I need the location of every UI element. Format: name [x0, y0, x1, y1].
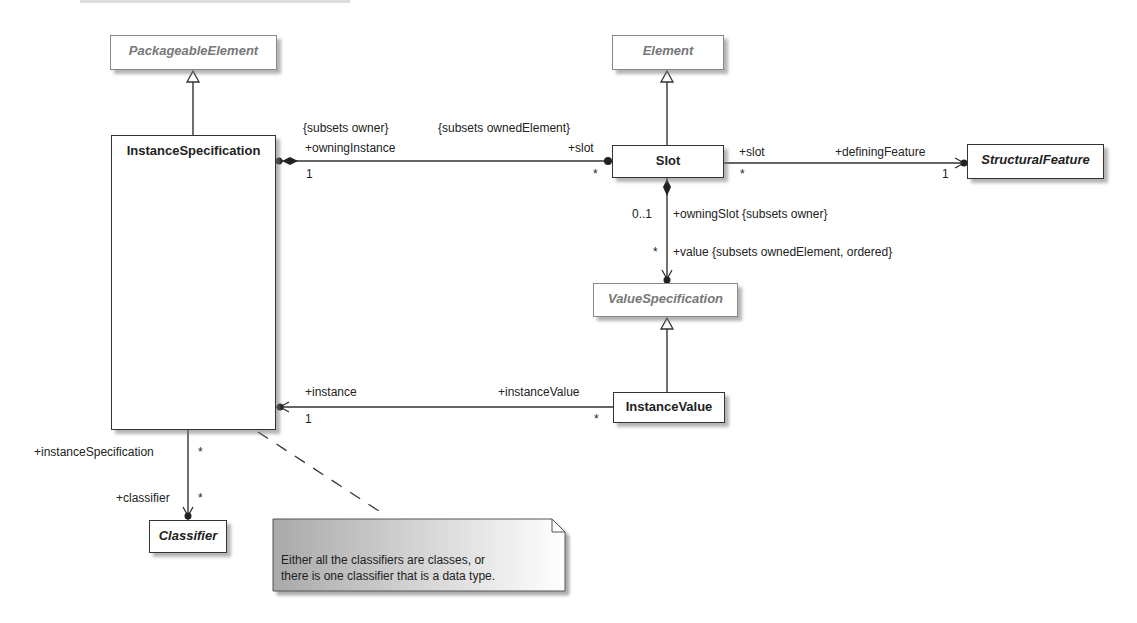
class-name: StructuralFeature [968, 145, 1103, 175]
constraint-note[interactable]: Either all the classifiers are classes, … [273, 519, 565, 591]
generalization-arrowhead-icon [661, 318, 673, 329]
role-owning-slot: +owningSlot {subsets owner} [673, 207, 827, 221]
multiplicity-instance-value: * [594, 412, 599, 426]
class-name: Classifier [150, 521, 226, 551]
note-anchor-line [258, 432, 385, 515]
class-packageable-element[interactable]: PackageableElement [110, 35, 277, 70]
association-instancespec-classifier[interactable] [183, 430, 193, 520]
class-instance-value[interactable]: InstanceValue [613, 392, 725, 423]
class-instance-specification[interactable]: InstanceSpecification [111, 135, 276, 430]
class-value-specification[interactable]: ValueSpecification [593, 283, 738, 317]
class-slot[interactable]: Slot [612, 145, 724, 178]
multiplicity-instance: 1 [305, 412, 312, 426]
generalization-instancevalue-valuespec[interactable] [661, 318, 673, 392]
class-name: PackageableElement [111, 36, 276, 66]
role-instance: +instance [305, 385, 357, 399]
ownership-dot-icon [277, 404, 284, 411]
role-classifier: +classifier [116, 491, 170, 505]
generalization-arrowhead-icon [661, 71, 673, 82]
class-element[interactable]: Element [612, 35, 724, 70]
multiplicity-slot: * [593, 167, 598, 181]
role-slot-feature-end: +slot [739, 145, 765, 159]
role-slot: +slot [568, 141, 594, 155]
constraint-subsets-ownedelement: {subsets ownedElement} [438, 121, 570, 135]
multiplicity-defining-feature: 1 [942, 167, 949, 181]
association-instance-instancevalue[interactable] [276, 402, 613, 412]
class-name: InstanceSpecification [112, 136, 275, 166]
ownership-dot-icon [276, 158, 283, 165]
multiplicity-classifier: * [198, 491, 203, 505]
note-line-1: Either all the classifiers are classes, … [281, 552, 495, 568]
constraint-subsets-owner: {subsets owner} [303, 121, 388, 135]
multiplicity-owning-slot: 0..1 [632, 207, 652, 221]
class-name: ValueSpecification [594, 284, 737, 314]
role-defining-feature: +definingFeature [835, 145, 925, 159]
composition-diamond-icon [663, 179, 671, 196]
class-name: InstanceValue [614, 393, 724, 421]
multiplicity-instance-specification: * [198, 445, 203, 459]
ownership-dot-icon [185, 513, 192, 520]
role-value: +value {subsets ownedElement, ordered} [673, 245, 892, 259]
class-name: Slot [613, 146, 723, 176]
ownership-dot-icon [604, 157, 612, 165]
multiplicity-owning-instance: 1 [306, 167, 313, 181]
multiplicity-value: * [653, 245, 658, 259]
association-slot-definingfeature[interactable] [724, 158, 968, 168]
generalization-instancespec-packageable[interactable] [187, 71, 199, 135]
generalization-slot-element[interactable] [661, 71, 673, 145]
association-owningslot-value[interactable] [662, 178, 672, 284]
role-instance-specification: +instanceSpecification [34, 445, 154, 459]
generalization-arrowhead-icon [187, 71, 199, 82]
class-classifier[interactable]: Classifier [149, 520, 227, 553]
class-structural-feature[interactable]: StructuralFeature [967, 144, 1104, 179]
role-instance-value: +instanceValue [498, 385, 580, 399]
composition-diamond-icon [282, 157, 298, 165]
class-name: Element [613, 36, 723, 66]
multiplicity-slot-feature-end: * [740, 167, 745, 181]
association-owninginstance-slot[interactable] [276, 157, 613, 165]
note-text: Either all the classifiers are classes, … [281, 552, 495, 584]
role-owning-instance: +owningInstance [305, 141, 395, 155]
note-line-2: there is one classifier that is a data t… [281, 568, 495, 584]
